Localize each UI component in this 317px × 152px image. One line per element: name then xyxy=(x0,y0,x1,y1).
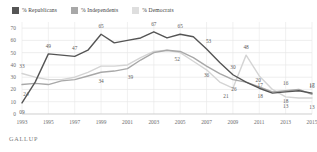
gallup-brand: GALLUP xyxy=(9,135,38,142)
x-axis-ticks: 1993199519971999200120032005200720092011… xyxy=(0,119,317,131)
x-axis-tick-label: 1999 xyxy=(96,119,107,125)
series-line xyxy=(22,50,312,94)
data-point-label: 26 xyxy=(231,86,236,92)
y-axis-tick-label: 0 xyxy=(2,111,16,117)
x-axis-tick-label: 2015 xyxy=(307,119,317,125)
series-line xyxy=(22,32,312,103)
x-axis-tick-label: 2011 xyxy=(254,119,265,125)
chart-screenshot: % Republicans% Independents% Democrats 0… xyxy=(0,0,317,152)
legend-item: % Independents xyxy=(71,7,118,14)
data-point-label: 13 xyxy=(309,104,314,110)
data-point-label: 30 xyxy=(230,64,235,70)
data-point-label: 52 xyxy=(175,56,180,62)
legend-item-label: % Democrats xyxy=(142,7,173,13)
y-axis-tick-label: 20 xyxy=(2,86,16,92)
data-point-label: 09 xyxy=(19,109,24,115)
gridlines xyxy=(22,22,312,114)
data-point-label: 33 xyxy=(19,63,24,69)
chart-svg xyxy=(0,18,317,118)
data-point-label: 48 xyxy=(243,44,248,50)
legend-swatch-icon xyxy=(12,7,19,14)
x-axis-tick-label: 1995 xyxy=(43,119,54,125)
y-axis-tick-label: 70 xyxy=(2,25,16,31)
data-point-label: 13 xyxy=(283,103,288,109)
x-axis-tick-label: 2007 xyxy=(201,119,212,125)
x-axis-tick-label: 1997 xyxy=(69,119,80,125)
data-point-label: 17 xyxy=(258,82,263,88)
x-axis-tick-label: 2013 xyxy=(280,119,291,125)
legend-item-label: % Republicans xyxy=(22,7,57,13)
data-point-label: 53 xyxy=(206,38,211,44)
y-axis-tick-label: 10 xyxy=(2,99,16,105)
data-point-label: 21 xyxy=(223,93,228,99)
data-point-label: 65 xyxy=(178,23,183,29)
plot-area: 010203040506070 094947656765533020181724… xyxy=(0,18,317,118)
data-point-label: 34 xyxy=(98,78,103,84)
y-axis-tick-label: 40 xyxy=(2,62,16,68)
data-point-label: 47 xyxy=(72,45,77,51)
legend-swatch-icon xyxy=(132,7,139,14)
x-axis-tick-label: 2003 xyxy=(148,119,159,125)
y-axis-tick-label: 60 xyxy=(2,37,16,43)
data-point-label: 24 xyxy=(23,91,28,97)
x-axis-tick-label: 2009 xyxy=(228,119,239,125)
chart-legend: % Republicans% Independents% Democrats xyxy=(12,4,174,16)
data-point-label: 36 xyxy=(204,72,209,78)
data-point-label: 18 xyxy=(258,93,263,99)
y-axis-tick-label: 50 xyxy=(2,50,16,56)
data-point-label: 39 xyxy=(128,74,133,80)
x-axis-tick-label: 1993 xyxy=(17,119,28,125)
legend-swatch-icon xyxy=(71,7,78,14)
x-axis-tick-label: 2005 xyxy=(175,119,186,125)
series-lines xyxy=(22,32,312,103)
y-axis-tick-label: 30 xyxy=(2,74,16,80)
x-axis-tick-label: 2001 xyxy=(122,119,133,125)
legend-item: % Republicans xyxy=(12,7,57,14)
data-point-label: 65 xyxy=(98,23,103,29)
data-point-label: 16 xyxy=(283,80,288,86)
legend-item-label: % Independents xyxy=(81,7,118,13)
data-point-label: 49 xyxy=(46,43,51,49)
legend-item: % Democrats xyxy=(132,7,173,14)
data-point-label: 67 xyxy=(151,21,156,27)
data-point-label: 16 xyxy=(309,83,314,89)
